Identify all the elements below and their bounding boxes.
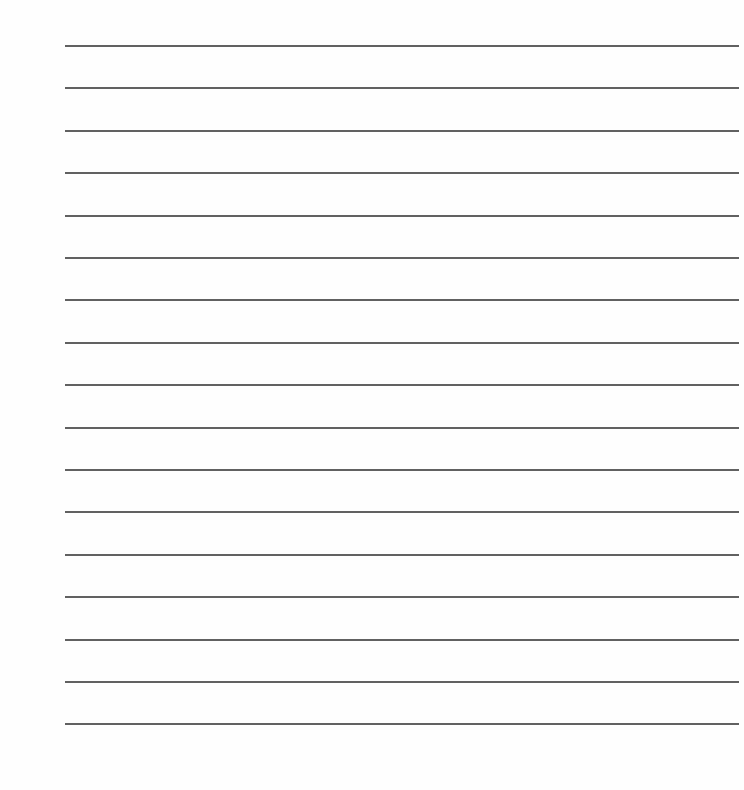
ruled-line [65, 427, 739, 429]
ruled-line [65, 172, 739, 174]
ruled-line [65, 130, 739, 132]
ruled-line [65, 469, 739, 471]
lined-paper-page [0, 0, 744, 790]
ruled-line [65, 511, 739, 513]
ruled-line [65, 257, 739, 259]
ruled-line [65, 45, 739, 47]
ruled-line [65, 596, 739, 598]
ruled-line [65, 87, 739, 89]
ruled-line [65, 681, 739, 683]
ruled-line [65, 723, 739, 725]
ruled-line [65, 215, 739, 217]
ruled-line [65, 299, 739, 301]
ruled-line [65, 554, 739, 556]
ruled-line [65, 639, 739, 641]
ruled-line [65, 342, 739, 344]
ruled-line [65, 384, 739, 386]
